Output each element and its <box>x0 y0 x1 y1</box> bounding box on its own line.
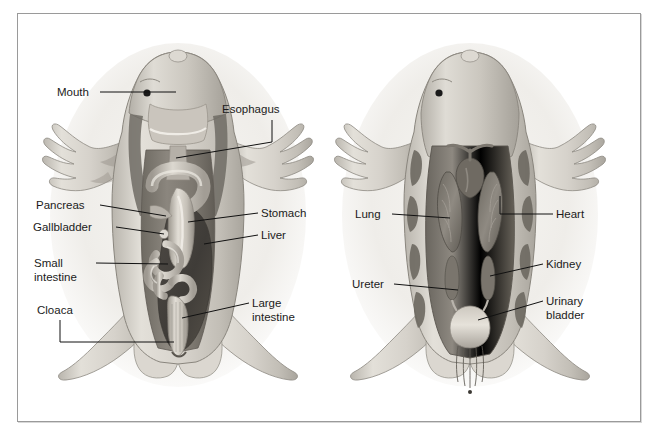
left-frog-mouth-cavity <box>148 104 207 145</box>
kidney-organ-left <box>445 256 459 300</box>
label-urinary-bladder: Urinary <box>546 295 583 307</box>
right-frog-eye <box>435 89 442 96</box>
label-mouth: Mouth <box>57 86 89 98</box>
label-stomach: Stomach <box>261 207 306 219</box>
label-urinary-bladder-line2: bladder <box>546 309 585 321</box>
label-large-intestine: Large <box>252 297 281 309</box>
label-heart: Heart <box>556 208 585 220</box>
label-small-intestine-line2: intestine <box>34 271 77 283</box>
urinary-bladder-organ <box>450 306 490 348</box>
kidney-organ-right <box>481 256 495 300</box>
frog-anatomy-diagram: Mouth Esophagus Pancreas Gallbladder Sma… <box>0 0 658 441</box>
label-esophagus: Esophagus <box>222 103 280 115</box>
figure-root: Mouth Esophagus Pancreas Gallbladder Sma… <box>0 0 658 441</box>
label-kidney: Kidney <box>546 258 581 270</box>
label-liver: Liver <box>261 229 286 241</box>
label-lung: Lung <box>355 208 381 220</box>
label-large-intestine-line2: intestine <box>252 311 295 323</box>
label-pancreas: Pancreas <box>36 199 85 211</box>
left-frog-eye <box>143 89 150 96</box>
label-small-intestine: Small <box>34 257 63 269</box>
large-intestine-organ <box>168 296 188 356</box>
label-gallbladder: Gallbladder <box>33 221 92 233</box>
label-cloaca: Cloaca <box>37 304 73 316</box>
label-ureter: Ureter <box>352 278 384 290</box>
